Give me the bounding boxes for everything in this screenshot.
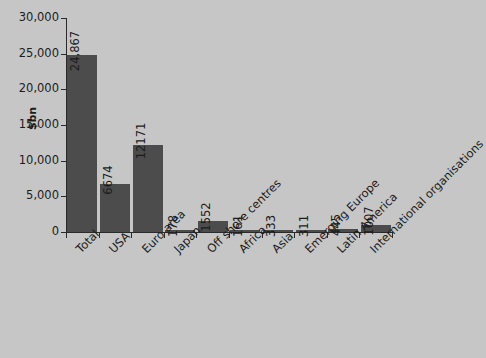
x-axis-category-label: USA [106, 229, 133, 256]
y-axis-tick-mark [61, 161, 66, 162]
x-axis-tick-mark [66, 233, 67, 238]
y-axis-tick-mark [61, 18, 66, 19]
y-axis-tick-label: 10,000 [19, 153, 59, 167]
bar-value-label: 311 [297, 215, 311, 237]
y-axis-tick-mark [61, 89, 66, 90]
y-axis-tick-label: 5,000 [26, 188, 59, 202]
y-axis-tick-label: 0 [52, 224, 59, 238]
bar-value-label: 12171 [134, 123, 148, 160]
bar[interactable]: 12171 [133, 145, 163, 232]
y-axis-tick-mark [61, 196, 66, 197]
bar[interactable]: 6674 [100, 184, 130, 232]
bar-value-label: 24,867 [68, 31, 82, 71]
y-axis-tick-mark [61, 125, 66, 126]
y-axis-tick-label: 25,000 [19, 46, 59, 60]
y-axis-tick-mark [61, 54, 66, 55]
bar-value-label: 6674 [101, 166, 115, 195]
y-axis-tick-label: 20,000 [19, 81, 59, 95]
y-axis-tick-label: 30,000 [19, 10, 59, 24]
bar-value-label: 1552 [199, 202, 213, 231]
bar[interactable]: 24,867 [67, 55, 97, 232]
y-axis-tick-label: 15,000 [19, 117, 59, 131]
plot-area: 05,00010,00015,00020,00025,00030,000 24,… [66, 18, 392, 232]
